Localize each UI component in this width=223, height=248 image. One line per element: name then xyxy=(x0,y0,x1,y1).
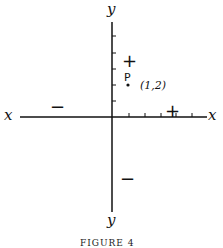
figure-caption: FIGURE 4 xyxy=(80,238,135,248)
y-negative-sign: − xyxy=(120,170,135,188)
y-positive-sign: + xyxy=(122,52,137,70)
x-axis-label-left: x xyxy=(4,108,12,123)
point-p-coords: (1,2) xyxy=(140,80,166,91)
y-axis-label-top: y xyxy=(107,2,115,17)
y-axis-label-bottom: y xyxy=(107,213,115,228)
x-positive-sign: + xyxy=(165,102,180,120)
point-p-label: P xyxy=(124,72,131,83)
x-axis-label-right: x xyxy=(208,108,216,123)
x-negative-sign: − xyxy=(50,98,65,116)
